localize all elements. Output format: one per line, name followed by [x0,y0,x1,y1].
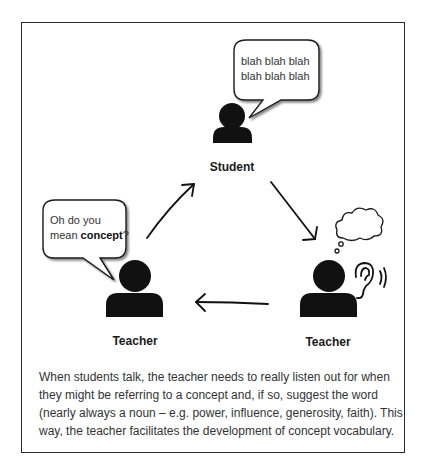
teacher-speech-suffix: ? [123,229,129,241]
caption-line-4: way, the teacher facilitates the develop… [39,422,399,440]
teacher-speech-text: Oh do you mean concept? [50,213,129,243]
caption-line-2: they might be referring to a concept and… [39,386,399,404]
arrow-teacher-to-student [147,184,194,238]
student-person-icon [213,103,252,143]
teacher-speech-prefix: mean [50,229,81,241]
arrow-teacher-to-teacher [196,294,268,311]
arrow-student-to-teacher [271,182,317,240]
teacher-speech-line-2: mean concept? [50,228,129,243]
teacher-speech-line-1: Oh do you [50,213,129,228]
teacher-right-label: Teacher [305,335,350,349]
teacher-left-person-icon [106,260,163,317]
teacher-left-label: Teacher [112,334,157,348]
caption-line-1: When students talk, the teacher needs to… [39,368,399,386]
ear-listening-icon [356,263,386,298]
student-speech-line-1: blah blah blah [241,54,310,69]
teacher-right-person-icon [300,260,357,317]
student-speech-line-2: blah blah blah [241,69,310,84]
thought-cloud-icon [335,208,383,253]
student-label: Student [210,160,255,174]
caption: When students talk, the teacher needs to… [39,368,399,440]
teacher-speech-keyword: concept [81,229,123,241]
caption-line-3: (nearly always a noun – e.g. power, infl… [39,404,399,422]
student-speech-text: blah blah blah blah blah blah [241,54,310,84]
